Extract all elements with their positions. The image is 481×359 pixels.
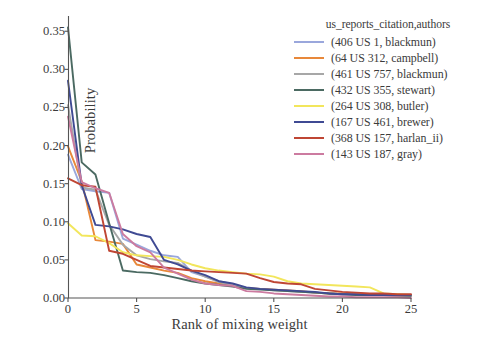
legend-item[interactable]: (264 US 308, butler) (292, 98, 478, 114)
legend-item-label: (143 US 187, gray) (331, 147, 422, 162)
x-tick-label: 10 (185, 302, 225, 317)
legend-item-label: (432 US 355, stewart) (331, 83, 435, 98)
y-tick-label: 0.15 (5, 176, 65, 191)
y-tick-label: 0.25 (5, 100, 65, 115)
x-tick-label: 20 (322, 302, 362, 317)
x-tick-label: 15 (254, 302, 294, 317)
x-tick-label: 25 (391, 302, 431, 317)
legend-title: us_reports_citation,authors (298, 18, 478, 31)
legend-item-label: (64 US 312, campbell) (331, 51, 438, 66)
legend-color-swatch (294, 73, 324, 75)
legend-item[interactable]: (64 US 312, campbell) (292, 50, 478, 66)
legend-item-label: (264 US 308, butler) (331, 99, 428, 114)
legend-color-swatch (294, 105, 324, 107)
y-axis-label: Probability (82, 51, 99, 191)
legend-item[interactable]: (461 US 757, blackmun) (292, 66, 478, 82)
legend-item[interactable]: (368 US 157, harlan_ii) (292, 130, 478, 146)
chart-figure: 0.000.050.100.150.200.250.300.35 0510152… (0, 0, 481, 359)
legend-color-swatch (294, 121, 324, 123)
y-tick-label: 0.05 (5, 252, 65, 267)
series-line (68, 178, 411, 294)
legend-color-swatch (294, 57, 324, 59)
legend-color-swatch (294, 41, 324, 43)
chart-legend: us_reports_citation,authors (406 US 1, b… (292, 18, 478, 162)
y-tick-label: 0.10 (5, 214, 65, 229)
legend-item[interactable]: (167 US 461, brewer) (292, 114, 478, 130)
x-axis-label: Rank of mixing weight (68, 316, 411, 333)
legend-item[interactable]: (432 US 355, stewart) (292, 82, 478, 98)
legend-color-swatch (294, 89, 324, 91)
legend-item[interactable]: (143 US 187, gray) (292, 146, 478, 162)
x-tick-label: 5 (117, 302, 157, 317)
legend-item-label: (461 US 757, blackmun) (331, 67, 447, 82)
legend-item-label: (368 US 157, harlan_ii) (331, 131, 443, 146)
y-tick-label: 0.30 (5, 62, 65, 77)
y-tick-label: 0.20 (5, 138, 65, 153)
legend-items: (406 US 1, blackmun)(64 US 312, campbell… (292, 34, 478, 162)
legend-item-label: (167 US 461, brewer) (331, 115, 434, 130)
x-tick-label: 0 (48, 302, 88, 317)
legend-item-label: (406 US 1, blackmun) (331, 35, 436, 50)
legend-color-swatch (294, 137, 324, 139)
y-tick-label: 0.35 (5, 24, 65, 39)
legend-item[interactable]: (406 US 1, blackmun) (292, 34, 478, 50)
legend-color-swatch (294, 153, 324, 155)
